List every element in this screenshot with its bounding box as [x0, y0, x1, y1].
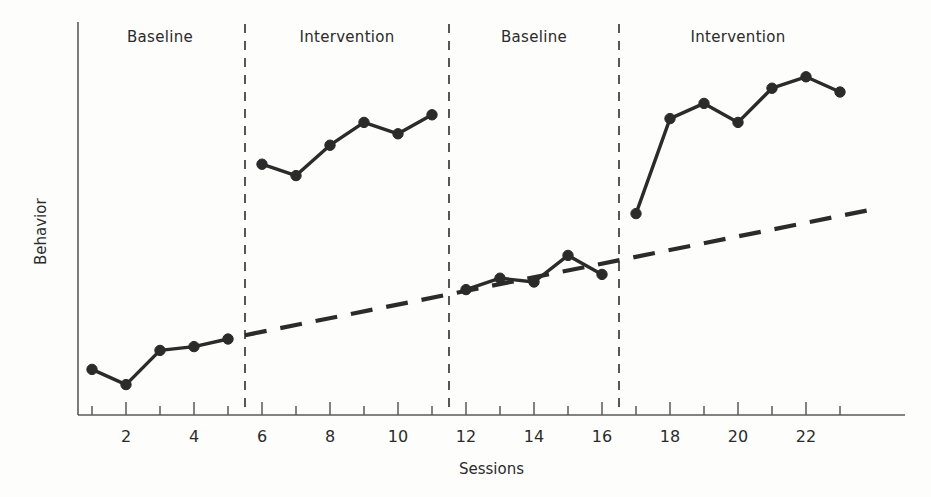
- x-tick-label-20: 20: [728, 427, 748, 446]
- chart-figure: 246810121416182022BaselineInterventionBa…: [0, 0, 931, 497]
- data-point-session-12: [461, 284, 471, 294]
- trend-line: [245, 210, 871, 335]
- data-point-session-19: [699, 98, 709, 108]
- y-axis-label: Behavior: [32, 198, 50, 265]
- data-point-session-14: [529, 277, 539, 287]
- x-tick-label-16: 16: [592, 427, 612, 446]
- data-point-session-5: [223, 334, 233, 344]
- x-tick-label-4: 4: [189, 427, 199, 446]
- data-point-session-11: [427, 110, 437, 120]
- chart-plot-area: [0, 0, 931, 497]
- x-tick-label-10: 10: [388, 427, 408, 446]
- data-point-session-3: [155, 345, 165, 355]
- data-point-session-8: [325, 140, 335, 150]
- data-series: [87, 72, 845, 390]
- phase-change-lines: [245, 24, 619, 413]
- data-point-session-20: [733, 117, 743, 127]
- data-point-session-13: [495, 273, 505, 283]
- data-point-session-21: [767, 83, 777, 93]
- data-point-session-22: [801, 72, 811, 82]
- series-line-phase-2: [262, 115, 432, 176]
- phase-label-2-intervention: Intervention: [299, 28, 394, 46]
- axis-ticks: [92, 402, 840, 415]
- x-tick-label-18: 18: [660, 427, 680, 446]
- data-point-session-4: [189, 341, 199, 351]
- data-point-session-23: [835, 87, 845, 97]
- projected-trend-line: [245, 210, 871, 335]
- x-tick-label-14: 14: [524, 427, 544, 446]
- x-tick-label-22: 22: [796, 427, 816, 446]
- data-point-session-1: [87, 364, 97, 374]
- series-line-phase-4: [636, 77, 840, 214]
- data-point-session-7: [291, 170, 301, 180]
- phase-label-4-intervention: Intervention: [690, 28, 785, 46]
- data-point-session-15: [563, 250, 573, 260]
- x-tick-label-8: 8: [325, 427, 335, 446]
- x-tick-label-2: 2: [121, 427, 131, 446]
- data-point-session-18: [665, 113, 675, 123]
- data-point-session-9: [359, 117, 369, 127]
- phase-label-1-baseline: Baseline: [127, 28, 193, 46]
- data-point-session-6: [257, 159, 267, 169]
- x-tick-label-12: 12: [456, 427, 476, 446]
- data-point-session-16: [597, 269, 607, 279]
- data-point-session-10: [393, 129, 403, 139]
- phase-label-3-baseline: Baseline: [501, 28, 567, 46]
- data-point-session-17: [631, 208, 641, 218]
- x-axis-label: Sessions: [459, 460, 524, 478]
- axes: [78, 22, 905, 415]
- x-tick-label-6: 6: [257, 427, 267, 446]
- data-point-session-2: [121, 379, 131, 389]
